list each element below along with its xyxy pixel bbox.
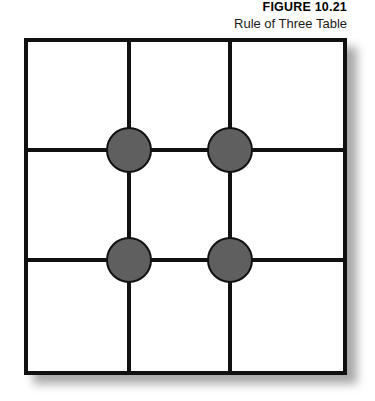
figure-area [0, 0, 375, 401]
grid-line-horizontal-2 [24, 258, 347, 262]
grid-line-vertical-1 [127, 38, 131, 375]
intersection-node-row1-col2 [207, 127, 253, 173]
grid-line-horizontal-1 [24, 148, 347, 152]
intersection-node-row2-col1 [106, 237, 152, 283]
rule-of-three-table [24, 38, 347, 375]
intersection-node-row2-col2 [207, 237, 253, 283]
grid-line-vertical-2 [228, 38, 232, 375]
intersection-node-row1-col1 [106, 127, 152, 173]
